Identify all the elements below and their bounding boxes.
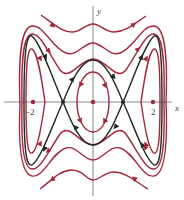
saddle-point-neg1 (61, 100, 65, 104)
arrow-icon (44, 148, 45, 149)
arrow-icon (52, 25, 53, 26)
phase-portrait: y x −2 2 (0, 0, 184, 200)
arrow-icon (45, 56, 46, 57)
loop-right-center (141, 49, 160, 153)
arrow-icon (133, 24, 134, 25)
arrow-icon (52, 179, 53, 180)
x-axis-label: x (174, 103, 179, 113)
arrow-icon (40, 58, 41, 59)
arrow-icon (105, 120, 106, 121)
arrow-icon (105, 85, 106, 86)
arrow-icon (40, 143, 41, 144)
arrow-icon (113, 76, 114, 77)
arrow-icon (81, 84, 82, 85)
loop-left-center (26, 49, 45, 153)
saddle-point-1 (121, 100, 125, 104)
y-axis-label: y (96, 6, 101, 16)
center-point-2 (151, 100, 155, 104)
separatrix-left (24, 36, 63, 165)
tick-label-2: 2 (151, 107, 156, 117)
top-wave-orbit (41, 15, 146, 32)
center-point-neg2 (31, 100, 35, 104)
arrow-icon (142, 145, 143, 146)
arrow-icon (72, 79, 73, 80)
arrow-icon (146, 144, 147, 145)
arrow-icon (80, 120, 81, 121)
arrow-icon (75, 127, 76, 128)
arrow-icon (134, 178, 135, 179)
arrow-icon (115, 126, 116, 127)
arrow-icon (145, 147, 146, 148)
arrow-icon (141, 57, 142, 58)
center-point-origin (91, 100, 95, 104)
bottom-wave-orbit (40, 170, 148, 189)
arrow-icon (146, 58, 147, 59)
